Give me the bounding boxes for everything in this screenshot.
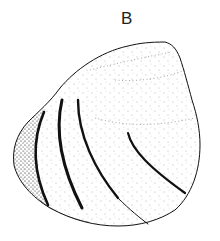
shell-illustration [0, 0, 220, 241]
stipple-texture [0, 0, 220, 241]
